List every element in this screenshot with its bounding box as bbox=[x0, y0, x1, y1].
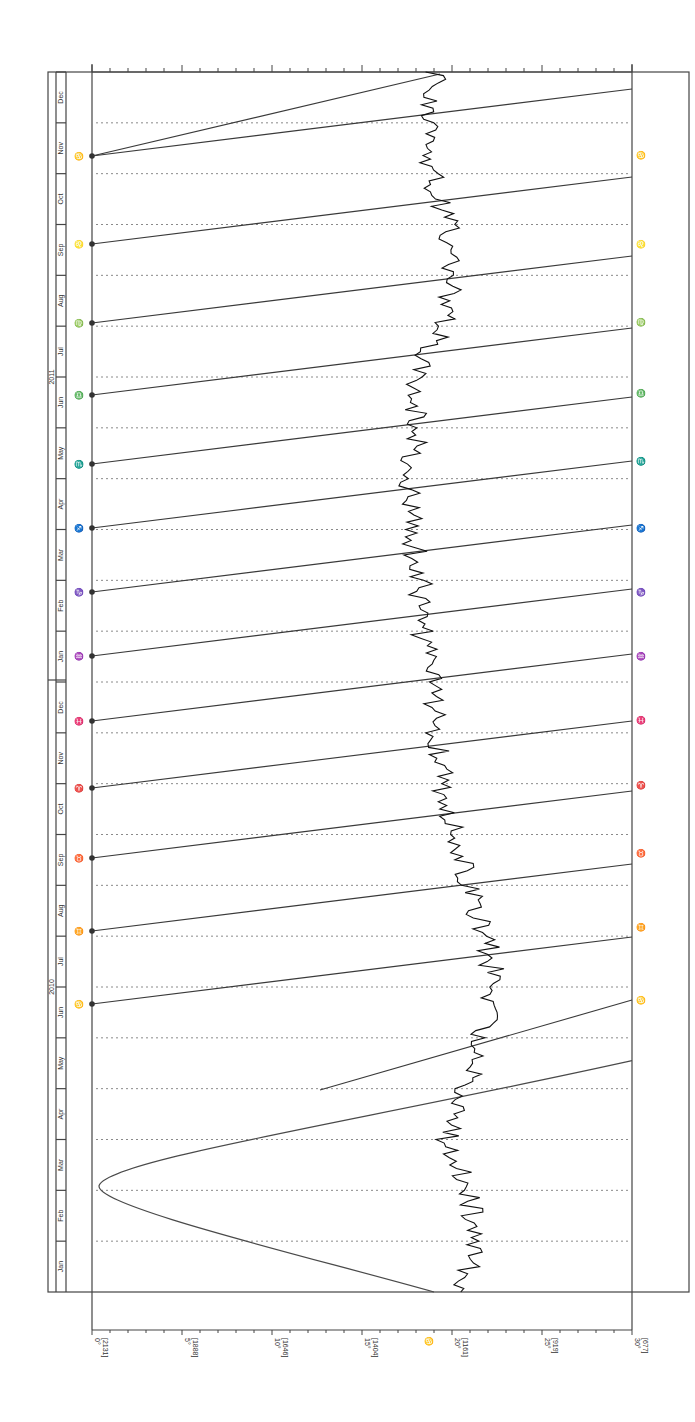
x-tick-sub: [1646] bbox=[281, 1338, 289, 1358]
top-ticks bbox=[92, 65, 632, 72]
month-label: Jun bbox=[57, 1007, 64, 1018]
month-label: Apr bbox=[57, 498, 65, 510]
x-tick-degree: 5° bbox=[184, 1338, 191, 1345]
month-label: Jul bbox=[57, 347, 64, 356]
ingress-line bbox=[92, 328, 632, 395]
year-label: 2010 bbox=[48, 979, 55, 995]
month-label: Jul bbox=[57, 957, 64, 966]
ingress-dot bbox=[89, 589, 95, 595]
sign-ingress-lines: ♋♌♍♎♏♐♑♒♓♈♉♊♋♋♌♍♎♏♐♑♒♓♈♉♊♋ bbox=[74, 74, 646, 1090]
ingress-dot bbox=[89, 928, 95, 934]
ingress-dot bbox=[89, 320, 95, 326]
sign-glyph-right: ♓ bbox=[636, 715, 646, 725]
fast-planet-curve bbox=[99, 1061, 632, 1292]
sign-glyph-right: ♈ bbox=[636, 780, 646, 790]
sign-glyph: ♋ bbox=[74, 151, 84, 161]
x-tick-degree: 0° bbox=[94, 1338, 101, 1345]
x-tick-sub: [1161] bbox=[461, 1338, 469, 1357]
x-tick-degree: 15° bbox=[364, 1338, 371, 1349]
x-tick-degree: 30° bbox=[634, 1338, 641, 1349]
sign-glyph-right: ♒ bbox=[636, 651, 646, 661]
month-label: Mar bbox=[57, 548, 64, 561]
ingress-dot bbox=[89, 653, 95, 659]
month-label: Dec bbox=[57, 91, 64, 104]
sign-glyph: ♏ bbox=[74, 459, 84, 469]
ingress-dot bbox=[89, 525, 95, 531]
sign-glyph: ♎ bbox=[74, 390, 84, 400]
ingress-line bbox=[92, 461, 632, 528]
sign-glyph-right: ♋ bbox=[636, 150, 646, 160]
sign-glyph-right: ♊ bbox=[636, 922, 646, 932]
ingress-dot bbox=[89, 461, 95, 467]
sign-glyph: ♑ bbox=[74, 587, 84, 597]
ingress-dot bbox=[89, 785, 95, 791]
ingress-dot bbox=[89, 241, 95, 247]
month-label: Nov bbox=[57, 142, 64, 155]
ingress-line bbox=[92, 525, 632, 592]
month-label: Dec bbox=[57, 701, 64, 714]
sign-glyph: ♉ bbox=[74, 853, 84, 863]
ingress-line bbox=[92, 74, 440, 156]
sign-glyph: ♍ bbox=[74, 318, 84, 328]
sign-glyph: ♐ bbox=[74, 523, 84, 533]
sign-glyph: ♊ bbox=[74, 926, 84, 936]
x-tick-sub: [919] bbox=[551, 1338, 559, 1354]
sign-glyph: ♋ bbox=[74, 999, 84, 1009]
x-tick-sub: [1404] bbox=[371, 1338, 379, 1358]
ingress-line bbox=[92, 791, 632, 858]
ingress-line bbox=[92, 654, 632, 721]
month-strip: JanFebMarAprMayJunJulAugSepOctNovDecJanF… bbox=[56, 72, 66, 1272]
year-labels: 20102011 bbox=[48, 369, 55, 994]
month-label: Aug bbox=[57, 904, 65, 917]
ingress-line bbox=[92, 177, 632, 244]
month-label: Feb bbox=[57, 600, 64, 612]
ingress-line bbox=[92, 589, 632, 656]
sign-glyph: ♈ bbox=[74, 783, 84, 793]
month-label: Sep bbox=[57, 244, 65, 257]
x-tick-degree: 10° bbox=[274, 1338, 281, 1349]
ingress-dot bbox=[89, 718, 95, 724]
x-tick-sub: [677] bbox=[641, 1338, 649, 1354]
sign-glyph: ♒ bbox=[74, 651, 84, 661]
month-label: Feb bbox=[57, 1210, 64, 1222]
month-label: Sep bbox=[57, 854, 65, 867]
start-glyph: ♋ bbox=[424, 1336, 434, 1346]
x-tick-degree: 25° bbox=[544, 1338, 551, 1349]
month-label: Mar bbox=[57, 1158, 64, 1171]
sign-glyph-right: ♋ bbox=[636, 995, 646, 1005]
sign-glyph-right: ♉ bbox=[636, 848, 646, 858]
ingress-dot bbox=[89, 392, 95, 398]
sign-glyph-right: ♑ bbox=[636, 587, 646, 597]
year-label: 2011 bbox=[48, 369, 55, 384]
month-label: May bbox=[57, 1056, 65, 1070]
ingress-line bbox=[92, 937, 632, 1004]
month-grid bbox=[96, 123, 630, 1241]
sign-glyph-right: ♏ bbox=[636, 456, 646, 466]
sign-glyph-right: ♎ bbox=[636, 388, 646, 398]
ingress-dot bbox=[89, 1001, 95, 1007]
month-label: Apr bbox=[57, 1108, 65, 1120]
month-label: Oct bbox=[57, 194, 64, 205]
ephemeris-chart: JanFebMarAprMayJunJulAugSepOctNovDecJanF… bbox=[0, 0, 695, 1422]
ingress-line bbox=[92, 256, 632, 323]
month-label: Aug bbox=[57, 294, 65, 307]
ingress-line bbox=[92, 397, 632, 464]
month-label: Jun bbox=[57, 397, 64, 408]
month-label: Oct bbox=[57, 804, 64, 815]
month-label: Nov bbox=[57, 752, 64, 765]
month-label: Jan bbox=[57, 651, 64, 662]
sign-glyph: ♌ bbox=[74, 239, 84, 249]
ingress-dot bbox=[89, 855, 95, 861]
month-label: Jan bbox=[57, 1261, 64, 1272]
x-tick-degree: 20° bbox=[454, 1338, 461, 1349]
month-label: May bbox=[57, 446, 65, 460]
ingress-line bbox=[92, 864, 632, 931]
x-tick-sub: [2131] bbox=[101, 1338, 109, 1358]
sign-glyph-right: ♐ bbox=[636, 523, 646, 533]
sign-glyph: ♓ bbox=[74, 716, 84, 726]
x-axis-labels: 0°[2131]5°[1888]10°[1646]15°[1404]20°[11… bbox=[94, 1338, 649, 1358]
ingress-line bbox=[92, 721, 632, 788]
sign-glyph-right: ♍ bbox=[636, 317, 646, 327]
sign-glyph-right: ♌ bbox=[636, 239, 646, 249]
x-tick-sub: [1888] bbox=[191, 1338, 199, 1358]
